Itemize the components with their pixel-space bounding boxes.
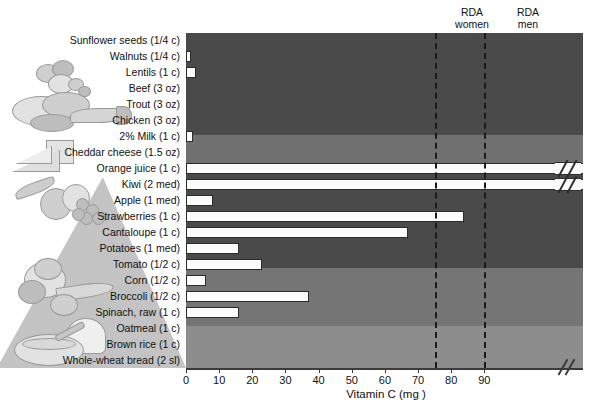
rda-women-annotation: RDA women <box>441 6 503 30</box>
band-grains <box>186 326 583 368</box>
rda-men-line1: RDA <box>497 6 559 18</box>
x-tick-label: 60 <box>370 374 400 386</box>
x-tick-label: 50 <box>337 374 367 386</box>
rda-women-line <box>435 33 437 368</box>
bar <box>186 307 239 318</box>
category-labels: Sunflower seeds (1/4 c)Walnuts (1/4 c)Le… <box>0 33 183 368</box>
bar <box>186 291 309 302</box>
bar <box>186 51 191 62</box>
category-label: Whole-wheat bread (2 sl) <box>0 354 180 366</box>
category-label: Potatoes (1 med) <box>0 242 180 254</box>
x-tick <box>484 368 485 373</box>
x-tick <box>418 368 419 373</box>
x-tick <box>186 368 187 373</box>
axis-break-icon <box>556 358 580 374</box>
rda-women-line1: RDA <box>441 6 503 18</box>
category-label: Lentils (1 c) <box>0 66 180 78</box>
bar <box>186 179 583 190</box>
x-tick <box>252 368 253 373</box>
category-label: 2% Milk (1 c) <box>0 130 180 142</box>
category-label: Beef (3 oz) <box>0 82 180 94</box>
vitamin-c-chart: RDA women RDA men Sunflower seeds (1/4 c… <box>0 0 611 410</box>
x-tick-label: 70 <box>403 374 433 386</box>
bar <box>186 243 239 254</box>
category-label: Trout (3 oz) <box>0 98 180 110</box>
x-tick-label: 20 <box>237 374 267 386</box>
category-label: Strawberries (1 c) <box>0 210 180 222</box>
bar <box>186 163 583 174</box>
bar <box>186 211 464 222</box>
rda-men-line2: men <box>497 18 559 30</box>
rda-men-line <box>484 33 486 368</box>
category-label: Cantaloupe (1 c) <box>0 226 180 238</box>
x-tick <box>385 368 386 373</box>
x-tick-label: 10 <box>204 374 234 386</box>
x-tick <box>285 368 286 373</box>
x-tick-label: 90 <box>469 374 499 386</box>
category-label: Chicken (3 oz) <box>0 114 180 126</box>
bar <box>186 131 193 142</box>
rda-women-line2: women <box>441 18 503 30</box>
bar <box>186 227 408 238</box>
rda-men-annotation: RDA men <box>497 6 559 30</box>
plot-area <box>186 33 583 368</box>
category-label: Broccoli (1/2 c) <box>0 290 180 302</box>
x-tick <box>319 368 320 373</box>
category-label: Kiwi (2 med) <box>0 178 180 190</box>
bar <box>186 67 196 78</box>
category-label: Cheddar cheese (1.5 oz) <box>0 146 180 158</box>
x-tick-label: 0 <box>171 374 201 386</box>
x-tick-label: 80 <box>436 374 466 386</box>
bar <box>186 275 206 286</box>
x-tick-label: 40 <box>304 374 334 386</box>
category-label: Brown rice (1 c) <box>0 338 180 350</box>
category-label: Tomato (1/2 c) <box>0 258 180 270</box>
x-tick <box>352 368 353 373</box>
category-label: Walnuts (1/4 c) <box>0 50 180 62</box>
bar <box>186 259 262 270</box>
category-label: Apple (1 med) <box>0 194 180 206</box>
bar <box>186 195 213 206</box>
x-tick <box>451 368 452 373</box>
category-label: Corn (1/2 c) <box>0 274 180 286</box>
band-protein <box>186 33 583 135</box>
category-label: Spinach, raw (1 c) <box>0 306 180 318</box>
x-tick-label: 30 <box>270 374 300 386</box>
category-label: Orange juice (1 c) <box>0 162 180 174</box>
x-axis-title: Vitamin C (mg ) <box>286 388 486 400</box>
category-label: Sunflower seeds (1/4 c) <box>0 34 180 46</box>
x-tick <box>219 368 220 373</box>
category-label: Oatmeal (1 c) <box>0 322 180 334</box>
